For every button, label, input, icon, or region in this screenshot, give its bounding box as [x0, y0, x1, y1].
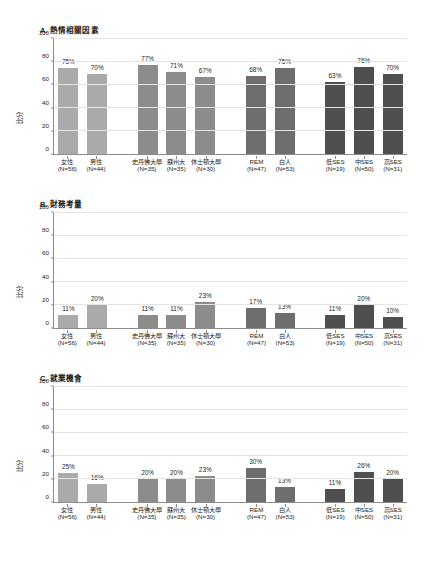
y-tick-label: 60: [42, 424, 49, 430]
x-label-sample-size: (N=47): [242, 513, 271, 520]
x-axis-label: 史丹佛大學(N=35): [132, 504, 162, 521]
x-label-sample-size: (N=44): [82, 339, 111, 346]
x-label-sample-size: (N=35): [132, 339, 162, 346]
x-axis-label: 白人(N=53): [271, 156, 300, 173]
bar: 20%: [166, 479, 186, 502]
x-label-sample-size: (N=50): [350, 165, 379, 172]
x-tick-mark: [147, 504, 148, 507]
bar: 11%: [166, 315, 186, 328]
x-label-category: 史丹佛大學: [132, 158, 162, 165]
x-tick-mark: [393, 156, 394, 159]
bar-slot: 76%: [349, 39, 378, 154]
bar-value-label: 23%: [199, 292, 212, 300]
y-tick-label: 100: [39, 30, 49, 36]
gridline: [54, 130, 407, 131]
x-tick-mark: [67, 330, 68, 333]
x-tick-mark: [176, 504, 177, 507]
y-tick-label: 0: [46, 494, 49, 500]
bar-value-label: 70%: [91, 64, 104, 72]
x-label-category: 中SES: [350, 506, 379, 513]
bar-value-label: 11%: [329, 305, 341, 313]
y-tick-label: 20: [42, 123, 49, 129]
bar-value-label: 20%: [386, 469, 399, 477]
panel-b-y-ticks: 020406080100: [32, 213, 52, 329]
x-label-sample-size: (N=35): [162, 513, 191, 520]
x-label-category: 休士頓大學: [191, 332, 221, 339]
bar: 10%: [383, 317, 403, 329]
bar-slot: 16%: [83, 387, 112, 502]
x-tick-mark: [206, 330, 207, 333]
x-label-sample-size: (N=30): [191, 513, 221, 520]
bar: 11%: [58, 315, 78, 328]
x-label-sample-size: (N=35): [162, 165, 191, 172]
y-tick-label: 80: [42, 401, 49, 407]
x-tick-mark: [256, 330, 257, 333]
group-gap: [299, 39, 321, 154]
x-tick-mark: [393, 504, 394, 507]
panel-c: C. 就業機會 比分 020406080100 25%16%20%20%23%3…: [18, 374, 409, 542]
x-label-sample-size: (N=53): [271, 513, 300, 520]
panel-a-y-axis-label: 比分: [16, 89, 24, 147]
bar-slot: 11%: [321, 387, 350, 502]
x-axis-label: 低SES(N=19): [321, 504, 350, 521]
x-label-sample-size: (N=56): [53, 165, 82, 172]
bar-slot: 26%: [349, 387, 378, 502]
bar-slot: 20%: [83, 213, 112, 328]
y-tick-label: 0: [46, 320, 49, 326]
x-tick-mark: [364, 156, 365, 159]
x-axis-label: 白人(N=53): [271, 504, 300, 521]
x-label-category: 高SES: [378, 158, 407, 165]
x-label-category: 男性: [82, 158, 111, 165]
x-label-category: 史丹佛大學: [132, 506, 162, 513]
x-label-sample-size: (N=30): [191, 339, 221, 346]
x-tick-mark: [335, 504, 336, 507]
bar-slot: 30%: [241, 387, 270, 502]
gridline: [54, 212, 407, 213]
bar-value-label: 11%: [329, 479, 341, 487]
bar: 23%: [195, 302, 215, 328]
x-axis-label: 休士頓大學(N=30): [191, 156, 221, 173]
bar: 20%: [87, 305, 107, 328]
x-label-sample-size: (N=50): [350, 339, 379, 346]
x-label-category: 蘇州大: [162, 506, 191, 513]
gridline: [54, 61, 407, 62]
x-axis-label: 高SES(N=31): [378, 156, 407, 173]
y-tick-label: 100: [39, 204, 49, 210]
group-gap: [112, 39, 134, 154]
x-axis-label: 高SES(N=31): [378, 504, 407, 521]
x-label-category: 高SES: [378, 332, 407, 339]
x-axis-label: 高SES(N=31): [378, 330, 407, 347]
panel-b-plot-area: 11%20%11%11%23%17%13%11%20%10%: [53, 213, 407, 329]
bar-slot: 11%: [133, 213, 162, 328]
bar-slot: 13%: [270, 213, 299, 328]
bar: 75%: [58, 68, 78, 154]
gridline: [54, 258, 407, 259]
x-axis-label: 女性(N=56): [53, 504, 82, 521]
panel-a-plot-area: 75%70%77%71%67%68%75%63%76%70%: [53, 39, 407, 155]
x-axis-label: 中SES(N=50): [350, 504, 379, 521]
x-label-category: 白人: [271, 332, 300, 339]
x-label-sample-size: (N=44): [82, 165, 111, 172]
x-label-category: 低SES: [321, 332, 350, 339]
bar-value-label: 11%: [141, 305, 153, 313]
panel-c-y-ticks: 020406080100: [32, 387, 52, 503]
gridline: [54, 478, 407, 479]
x-axis-label: 蘇州大(N=35): [162, 504, 191, 521]
bar-slot: 17%: [241, 213, 270, 328]
bar-slot: 63%: [321, 39, 350, 154]
x-label-sample-size: (N=56): [53, 339, 82, 346]
gridline: [54, 455, 407, 456]
x-tick-mark: [67, 156, 68, 159]
x-axis-label: 白人(N=53): [271, 330, 300, 347]
y-tick-label: 80: [42, 53, 49, 59]
gridline: [54, 409, 407, 410]
x-label-category: 中SES: [350, 332, 379, 339]
y-tick-label: 40: [42, 448, 49, 454]
x-tick-mark: [96, 330, 97, 333]
y-tick-label: 100: [39, 378, 49, 384]
x-axis-label: 史丹佛大學(N=35): [132, 330, 162, 347]
x-axis-label: REM(N=47): [242, 330, 271, 347]
x-label-sample-size: (N=31): [378, 339, 407, 346]
y-tick-label: 80: [42, 227, 49, 233]
bar-value-label: 20%: [91, 295, 104, 303]
